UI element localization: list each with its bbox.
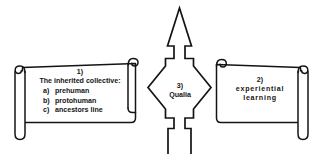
four-way-arrow-icon[interactable] <box>0 0 323 154</box>
center-arrow-label: Qualia <box>152 91 208 100</box>
diagram-canvas: 1) The inherited collective: a)prehuman … <box>0 0 323 154</box>
center-arrow-text: 3) Qualia <box>152 82 208 100</box>
four-way-arrow-outline <box>148 8 211 154</box>
center-arrow-number: 3) <box>152 82 208 91</box>
